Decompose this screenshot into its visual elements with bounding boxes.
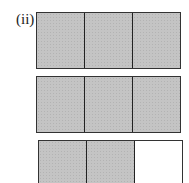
shaded-part [85, 77, 133, 132]
shaded-part [133, 13, 180, 68]
fraction-bar-3 [38, 140, 183, 183]
shaded-part [37, 13, 85, 68]
shaded-part [37, 77, 85, 132]
fraction-bar-2 [36, 76, 181, 133]
part-label: (ii) [16, 11, 34, 28]
shaded-part [87, 141, 135, 183]
unshaded-part [135, 141, 182, 183]
shaded-part [85, 13, 133, 68]
fraction-bar-1 [36, 12, 181, 69]
shaded-part [39, 141, 87, 183]
shaded-part [133, 77, 180, 132]
